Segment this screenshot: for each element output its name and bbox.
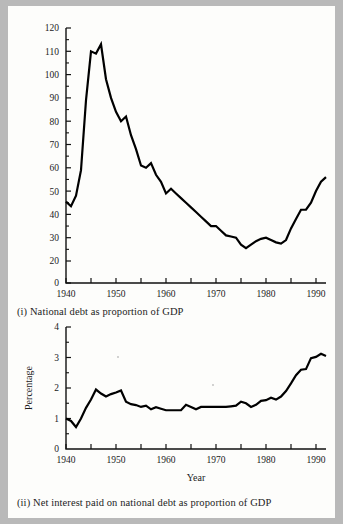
chart2-x-tick: 1970: [207, 455, 226, 465]
chart1-y-tick: 20: [50, 256, 60, 266]
chart2-y-tick: 1: [54, 414, 59, 424]
chart-net-interest-plot: 01234 194019501960197019801990 Percentag…: [8, 317, 335, 497]
scan-speck: [117, 356, 119, 358]
chart1-y-tick: 100: [45, 70, 60, 80]
chart1-x-tick: 1990: [307, 289, 326, 299]
chart1-x-tick: 1950: [107, 289, 126, 299]
chart1-x-tick: 1970: [207, 289, 226, 299]
chart2-y-tick-labels: 01234: [54, 322, 59, 454]
chart2-y-axis-title: Percentage: [23, 366, 34, 410]
figure-ii-caption: (ii) Net interest paid on national debt …: [8, 497, 335, 508]
chart2-x-tick: 1950: [107, 455, 126, 465]
chart1-y-tick: 0: [54, 278, 59, 288]
chart1-y-tick: 30: [50, 233, 60, 243]
chart2-y-tick: 3: [54, 353, 59, 363]
chart2-x-tick-labels: 194019501960197019801990: [57, 455, 326, 465]
chart2-x-tick: 1940: [57, 455, 76, 465]
chart1-y-tick: 110: [45, 47, 59, 57]
chart2-x-tick: 1960: [157, 455, 176, 465]
chart1-x-tick: 1980: [257, 289, 276, 299]
chart2-y-tick: 2: [54, 383, 59, 393]
chart1-y-tick-labels: 02030405060708090100110120: [45, 23, 60, 288]
figure-national-debt: 02030405060708090100110120 1940195019601…: [8, 6, 335, 317]
book-page: 02030405060708090100110120 1940195019601…: [8, 6, 335, 518]
chart1-y-tick: 90: [50, 93, 60, 103]
chart2-x-tick: 1990: [307, 455, 326, 465]
chart1-y-tick: 120: [45, 23, 60, 33]
chart2-y-tick: 0: [54, 444, 59, 454]
scan-speck: [212, 384, 214, 386]
chart-national-debt-plot: 02030405060708090100110120 1940195019601…: [8, 6, 335, 306]
chart2-y-tick: 4: [54, 322, 59, 332]
figure-net-interest: 01234 194019501960197019801990 Percentag…: [8, 317, 335, 508]
chart1-y-tick: 70: [50, 140, 60, 150]
chart1-y-tick: 80: [50, 117, 60, 127]
chart1-y-tick: 60: [50, 163, 60, 173]
chart2-x-axis-title: Year: [187, 472, 206, 483]
chart1-x-tick: 1940: [57, 289, 76, 299]
chart1-x-tick: 1960: [157, 289, 176, 299]
chart-net-interest-svg: 01234 194019501960197019801990 Percentag…: [8, 317, 335, 497]
chart1-series-line: [66, 44, 326, 248]
chart1-x-tick-labels: 194019501960197019801990: [57, 289, 326, 299]
chart2-x-tick: 1980: [257, 455, 276, 465]
chart-national-debt-svg: 02030405060708090100110120 1940195019601…: [8, 6, 335, 306]
chart1-y-tick: 50: [50, 187, 60, 197]
chart1-y-tick: 40: [50, 210, 60, 220]
figure-i-caption: (i) National debt as proportion of GDP: [8, 306, 335, 317]
chart2-series-line: [66, 354, 326, 427]
